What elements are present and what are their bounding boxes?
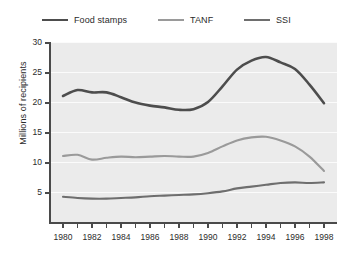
y-tick-label: 20 [33, 97, 42, 107]
x-tick-label: 1998 [315, 232, 334, 242]
x-tick-mark [135, 223, 137, 228]
series-line-tanf [63, 137, 324, 171]
x-tick-label: 1990 [199, 232, 218, 242]
x-tick-mark [236, 223, 238, 228]
x-tick-label: 1988 [170, 232, 189, 242]
x-tick-label: 1994 [257, 232, 276, 242]
x-tick-mark [120, 223, 122, 228]
x-tick-mark [294, 223, 296, 228]
y-tick-label: 30 [33, 37, 42, 47]
x-tick-mark [193, 223, 195, 228]
series-line-ssi [63, 182, 324, 198]
legend-item-ssi[interactable]: SSI [244, 12, 291, 28]
legend-item-tanf[interactable]: TANF [158, 12, 213, 28]
plot-area: 51015202530 1980198219841986198819901992… [50, 42, 337, 222]
x-tick-label: 1982 [83, 232, 102, 242]
x-tick-mark [62, 223, 64, 228]
legend-label-tanf: TANF [190, 15, 213, 25]
x-tick-mark [309, 223, 311, 228]
chart-legend: Food stamps TANF SSI [0, 12, 351, 28]
y-axis-title: Millions of recipients [18, 18, 28, 188]
chart-figure: Food stamps TANF SSI Millions of recipie… [0, 0, 351, 256]
x-tick-mark [251, 223, 253, 228]
x-tick-mark [149, 223, 151, 228]
x-tick-mark [178, 223, 180, 228]
y-tick-label: 10 [33, 157, 42, 167]
legend-swatch-food-stamps [42, 19, 68, 22]
x-tick-label: 1996 [286, 232, 305, 242]
series-line-food-stamps [63, 57, 324, 110]
y-tick-label: 5 [37, 187, 42, 197]
legend-label-ssi: SSI [276, 15, 291, 25]
x-tick-mark [207, 223, 209, 228]
x-tick-mark [164, 223, 166, 228]
y-tick-label: 15 [33, 127, 42, 137]
y-axis-line [49, 42, 51, 223]
x-tick-mark [265, 223, 267, 228]
series-container [50, 42, 337, 222]
x-tick-mark [323, 223, 325, 228]
x-tick-mark [77, 223, 79, 228]
x-tick-mark [280, 223, 282, 228]
legend-swatch-ssi [244, 19, 270, 21]
legend-swatch-tanf [158, 19, 184, 21]
legend-label-food-stamps: Food stamps [74, 15, 127, 25]
x-tick-mark [91, 223, 93, 228]
x-tick-mark [106, 223, 108, 228]
x-tick-label: 1992 [228, 232, 247, 242]
x-tick-mark [222, 223, 224, 228]
x-tick-label: 1980 [54, 232, 73, 242]
x-axis-line [49, 222, 337, 224]
legend-item-food-stamps[interactable]: Food stamps [42, 12, 127, 28]
x-tick-label: 1984 [112, 232, 131, 242]
x-tick-label: 1986 [141, 232, 160, 242]
y-tick-label: 25 [33, 67, 42, 77]
